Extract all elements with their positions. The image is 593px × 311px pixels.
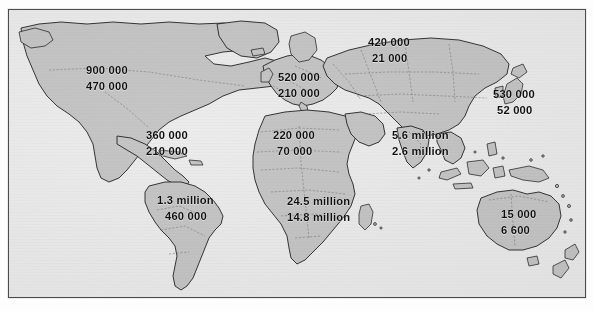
island-dot [568, 205, 571, 208]
region-value-secondary: 210 000 [278, 86, 320, 102]
region-value-secondary: 6 600 [501, 223, 536, 239]
region-value-secondary: 210 000 [146, 144, 188, 160]
region-value-secondary: 14.8 million [287, 210, 350, 226]
landmass-new-zealand-south [553, 260, 569, 278]
region-label-south-america: 1.3 million 460 000 [157, 193, 214, 224]
island-dot [562, 195, 565, 198]
island-dot [428, 169, 430, 171]
screenshot-root: 900 000 470 000 360 000 210 000 1.3 mill… [0, 0, 593, 311]
region-value-secondary: 460 000 [165, 209, 214, 225]
region-label-north-america: 900 000 470 000 [86, 63, 128, 94]
region-value-secondary: 70 000 [277, 144, 315, 160]
region-value-primary: 24.5 million [287, 194, 350, 210]
world-map-plate: 900 000 470 000 360 000 210 000 1.3 mill… [8, 9, 586, 298]
landmass-sulawesi [493, 166, 505, 178]
island-dot [555, 184, 558, 187]
region-value-secondary: 470 000 [86, 79, 128, 95]
island-dot [380, 227, 382, 229]
island-dot [564, 231, 566, 233]
landmass-sumatra [439, 168, 461, 180]
island-dot [530, 159, 533, 162]
island-dot [474, 151, 476, 153]
landmass-japan-north [511, 64, 527, 78]
landmass-hispaniola [189, 160, 203, 165]
landmass-new-zealand-north [565, 244, 579, 260]
island-dot [374, 223, 377, 226]
region-value-primary: 530 000 [493, 87, 535, 103]
region-label-eastern-europe-central-asia: 420 000 21 000 [368, 35, 410, 66]
region-value-secondary: 2.6 million [392, 144, 449, 160]
landmass-philippines [487, 142, 497, 156]
island-dot [418, 177, 420, 179]
landmass-tasmania [527, 256, 539, 266]
landmass-madagascar [359, 204, 373, 230]
region-value-primary: 1.3 million [157, 193, 214, 209]
region-label-north-africa-middle-east: 220 000 70 000 [273, 128, 315, 159]
region-label-western-europe: 520 000 210 000 [278, 70, 320, 101]
region-label-sub-saharan-africa: 24.5 million 14.8 million [287, 194, 350, 225]
island-dot [542, 155, 544, 157]
island-dot [502, 157, 504, 159]
region-value-primary: 360 000 [146, 128, 188, 144]
region-label-east-asia-pacific: 530 000 52 000 [493, 87, 535, 118]
region-value-primary: 15 000 [501, 207, 536, 223]
region-value-secondary: 52 000 [497, 103, 535, 119]
region-value-primary: 520 000 [278, 70, 320, 86]
landmass-greenland [217, 21, 279, 58]
region-label-australia-new-zealand: 15 000 6 600 [501, 207, 536, 238]
region-value-primary: 900 000 [86, 63, 128, 79]
region-value-primary: 220 000 [273, 128, 315, 144]
landmass-java [453, 183, 473, 189]
landmass-borneo [467, 160, 489, 176]
island-dot [570, 219, 573, 222]
region-value-primary: 420 000 [368, 35, 410, 51]
region-label-south-south-east-asia: 5.6 million 2.6 million [392, 128, 449, 159]
region-value-primary: 5.6 million [392, 128, 449, 144]
region-label-caribbean-central-america: 360 000 210 000 [146, 128, 188, 159]
region-value-secondary: 21 000 [372, 51, 410, 67]
landmass-new-guinea [509, 166, 549, 182]
